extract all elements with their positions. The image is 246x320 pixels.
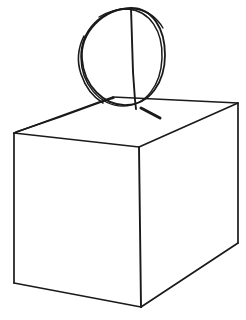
sphere-on-box-figure — [0, 0, 246, 320]
canvas-background — [0, 0, 246, 320]
drawing-canvas — [0, 0, 246, 320]
